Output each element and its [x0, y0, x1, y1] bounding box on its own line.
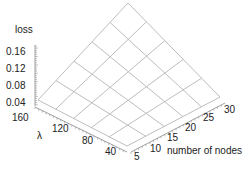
- wireframe-line: [91, 59, 183, 127]
- wireframe-line: [74, 61, 164, 126]
- wireframe-line: [92, 42, 183, 117]
- nodes-tick-10: 10: [150, 144, 161, 154]
- nodes-tick-5: 5: [134, 152, 140, 162]
- wireframe-line: [38, 3, 128, 100]
- nodes-tick-25: 25: [203, 113, 214, 123]
- lambda-tick-80: 80: [82, 136, 93, 146]
- lambda-axis-label: λ: [37, 131, 42, 141]
- z-tick-0.16: 0.16: [6, 47, 25, 57]
- z-axis-label: loss: [15, 25, 33, 35]
- nodes-tick-15: 15: [167, 133, 178, 143]
- lambda-tick-120: 120: [52, 124, 69, 134]
- nodes-axis-label: number of nodes: [167, 146, 242, 156]
- nodes-tick-30: 30: [224, 105, 235, 115]
- nodes-tick-20: 20: [185, 123, 196, 133]
- z-tick-0.04: 0.04: [6, 98, 25, 108]
- z-tick-0.08: 0.08: [6, 81, 25, 91]
- z-tick-0.12: 0.12: [6, 64, 25, 74]
- lambda-tick-40: 40: [105, 147, 116, 157]
- wireframe-line: [56, 81, 146, 137]
- lambda-tick-160: 160: [12, 113, 29, 123]
